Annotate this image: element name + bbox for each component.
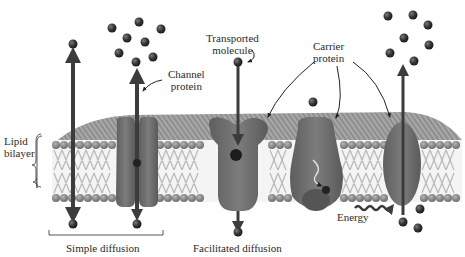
- label-line: Channel: [168, 68, 205, 80]
- transported-molecule: [234, 58, 243, 67]
- label-line: Lipid: [4, 135, 35, 147]
- free-molecule: [309, 98, 318, 107]
- carrier-protein-label: Carrier protein: [313, 40, 344, 64]
- channel-protein-right-half: [139, 117, 158, 207]
- energy-label: Energy: [337, 211, 369, 223]
- lipid-bilayer-label: Lipid bilayer: [4, 135, 35, 159]
- transported-molecule-label: Transported molecule: [206, 32, 259, 56]
- released-molecule: [322, 186, 330, 194]
- simple-diffusion-label: Simple diffusion: [66, 242, 139, 254]
- label-line: Transported: [206, 32, 259, 44]
- molecule: [69, 220, 78, 229]
- channel-leader: [143, 80, 162, 91]
- bound-molecule: [230, 149, 242, 161]
- facilitated-diffusion-label: Facilitated diffusion: [193, 242, 282, 254]
- molecule: [234, 228, 243, 237]
- channel-protein: [116, 76, 158, 229]
- membrane-transport-diagram: Channel protein Transported molecule Car…: [0, 0, 465, 257]
- channel-protein-label: Channel protein: [168, 68, 205, 92]
- label-line: protein: [313, 52, 344, 64]
- carrier-leader-3: [353, 62, 390, 117]
- simple-diffusion-bracket: [49, 230, 163, 235]
- molecule-in-channel: [133, 159, 141, 167]
- channel-protein-left-half: [116, 117, 135, 207]
- molecule: [133, 220, 142, 229]
- label-line: molecule: [206, 44, 259, 56]
- label-line: Carrier: [313, 40, 344, 52]
- carrier-leader-2: [336, 66, 340, 118]
- molecule: [69, 40, 78, 49]
- carrier-leader-1: [268, 62, 314, 117]
- energy-squiggle-icon: [355, 206, 391, 210]
- label-line: protein: [168, 80, 205, 92]
- molecule-cluster-left: [108, 18, 166, 67]
- label-line: bilayer: [4, 147, 35, 159]
